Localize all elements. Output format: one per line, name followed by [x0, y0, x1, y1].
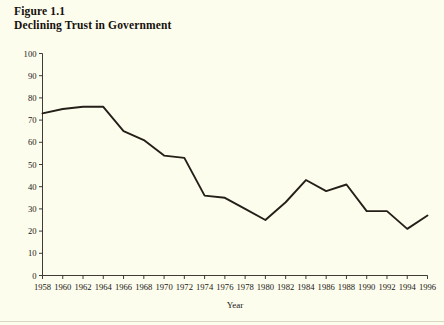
x-axis-tick-label: 1978 — [237, 282, 254, 292]
figure-container: Figure 1.1 Declining Trust in Government… — [0, 0, 444, 325]
x-axis-tick-label: 1996 — [419, 282, 437, 292]
x-axis-tick-label: 1984 — [297, 282, 315, 292]
data-series-line — [43, 107, 428, 229]
y-axis-tick-label: 90 — [28, 71, 37, 81]
y-axis-tick-label: 80 — [28, 93, 37, 103]
x-axis-tick-label: 1990 — [358, 282, 375, 292]
x-axis-tick-label: 1986 — [318, 282, 336, 292]
y-axis-tick-label: 0 — [32, 271, 36, 281]
x-axis-tick-label: 1964 — [95, 282, 113, 292]
y-axis-tick-label: 60 — [28, 137, 37, 147]
y-axis-tick-label: 100 — [24, 49, 37, 59]
page-bottom-rule — [0, 321, 444, 322]
y-axis-tick-label: 40 — [28, 182, 37, 192]
x-axis-tick-label: 1972 — [176, 282, 193, 292]
line-chart: 0102030405060708090100195819601962196419… — [0, 0, 444, 325]
x-axis-tick-label: 1960 — [54, 282, 71, 292]
y-axis-tick-label: 20 — [28, 226, 37, 236]
x-axis-tick-label: 1968 — [135, 282, 152, 292]
y-axis-tick-label: 30 — [28, 204, 37, 214]
x-axis-tick-label: 1958 — [34, 282, 51, 292]
x-axis-tick-label: 1966 — [115, 282, 133, 292]
x-axis-tick-label: 1976 — [216, 282, 234, 292]
y-axis-tick-label: 10 — [28, 248, 37, 258]
x-axis-tick-label: 1980 — [257, 282, 274, 292]
x-axis-tick-label: 1974 — [196, 282, 214, 292]
x-axis-tick-label: 1970 — [155, 282, 172, 292]
x-axis-tick-label: 1982 — [277, 282, 294, 292]
chart-plot-area: 0102030405060708090100195819601962196419… — [0, 0, 444, 325]
x-axis-tick-label: 1988 — [338, 282, 355, 292]
y-axis-tick-label: 70 — [28, 115, 37, 125]
x-axis-tick-label: 1962 — [74, 282, 91, 292]
x-axis-tick-label: 1992 — [378, 282, 395, 292]
x-axis-title: Year — [227, 300, 244, 310]
y-axis-tick-label: 50 — [28, 160, 37, 170]
x-axis-tick-label: 1994 — [399, 282, 417, 292]
